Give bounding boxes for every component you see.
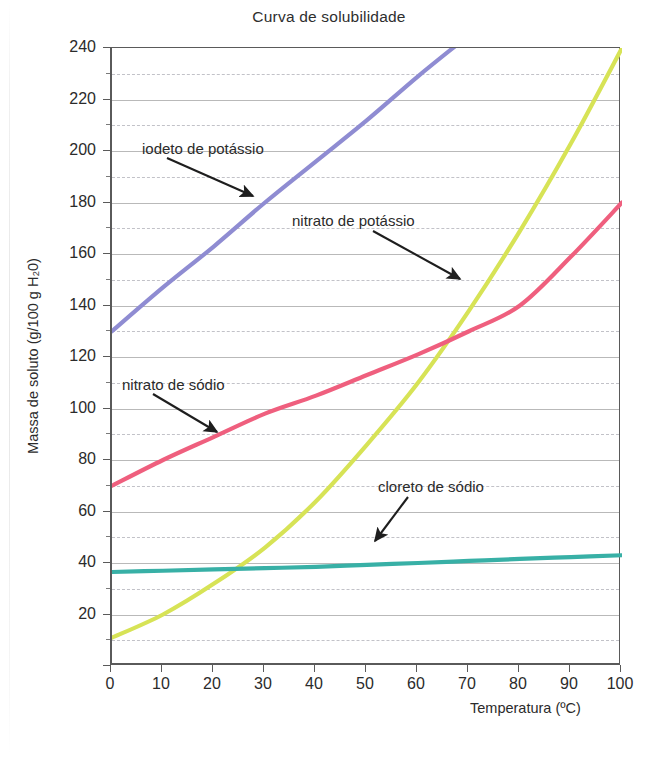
- series-line-nitrato-de-pot-ssio: [112, 48, 622, 638]
- y-axis-tick-minor: [106, 330, 110, 331]
- x-axis-tick-label: 20: [203, 675, 221, 693]
- x-axis-title: Temperatura (ºC): [470, 700, 581, 716]
- y-axis-tick-label: 80: [0, 450, 96, 468]
- y-axis-tick-minor: [106, 433, 110, 434]
- y-axis-tick: [103, 99, 110, 100]
- x-axis-tick: [212, 665, 213, 672]
- y-axis-tick-label: 140: [0, 296, 96, 314]
- x-axis-tick-label: 30: [254, 675, 272, 693]
- y-axis-tick-minor: [106, 536, 110, 537]
- x-axis-tick: [467, 665, 468, 672]
- y-axis-tick-label: 160: [0, 244, 96, 262]
- chart-title: Curva de solubilidade: [0, 8, 658, 26]
- y-axis-tick: [103, 47, 110, 48]
- x-axis-tick-label: 60: [407, 675, 425, 693]
- y-axis-tick: [103, 562, 110, 563]
- x-axis-tick: [365, 665, 366, 672]
- x-axis-tick-label: 80: [509, 675, 527, 693]
- y-axis-tick-label: 100: [0, 399, 96, 417]
- y-axis-tick-label: 60: [0, 502, 96, 520]
- x-axis-tick: [263, 665, 264, 672]
- y-axis-tick-label: 120: [0, 347, 96, 365]
- series-line-cloreto-de-s-dio: [112, 555, 622, 572]
- x-axis-tick-label: 90: [560, 675, 578, 693]
- annotation-cloreto-de-sodio: cloreto de sódio: [378, 478, 484, 495]
- page-scan-edge: [9, 0, 10, 758]
- y-axis-tick: [103, 202, 110, 203]
- y-axis-tick: [103, 511, 110, 512]
- x-axis-tick: [161, 665, 162, 672]
- y-axis-tick: [103, 665, 110, 666]
- y-axis-tick-label: 240: [0, 38, 96, 56]
- y-axis-tick-minor: [106, 279, 110, 280]
- y-axis-tick-minor: [106, 639, 110, 640]
- y-axis-tick-minor: [106, 382, 110, 383]
- x-axis-tick: [416, 665, 417, 672]
- y-axis-tick: [103, 459, 110, 460]
- x-axis-tick: [620, 665, 621, 672]
- x-axis-tick: [110, 665, 111, 672]
- x-axis-tick-label: 0: [106, 675, 115, 693]
- x-axis-tick-label: 70: [458, 675, 476, 693]
- x-axis-tick-label: 40: [305, 675, 323, 693]
- x-axis-tick: [314, 665, 315, 672]
- x-axis-tick-label: 10: [152, 675, 170, 693]
- y-axis-tick-minor: [106, 176, 110, 177]
- y-axis-tick: [103, 614, 110, 615]
- y-axis-tick-label: 180: [0, 193, 96, 211]
- annotation-nitrato-de-sodio: nitrato de sódio: [122, 376, 225, 393]
- y-axis-tick-label: 20: [0, 605, 96, 623]
- x-axis-tick-label: 50: [356, 675, 374, 693]
- y-axis-tick-minor: [106, 73, 110, 74]
- y-axis-tick: [103, 253, 110, 254]
- annotation-iodeto-de-potassio: iodeto de potássio: [142, 140, 264, 157]
- solubility-curve-figure: Curva de solubilidade Massa de soluto (g…: [0, 0, 658, 758]
- y-axis-tick-label: 200: [0, 141, 96, 159]
- y-axis-tick-minor: [106, 227, 110, 228]
- y-axis-tick: [103, 356, 110, 357]
- y-axis-tick: [103, 305, 110, 306]
- x-axis-tick-label: 100: [607, 675, 634, 693]
- y-axis-tick-minor: [106, 588, 110, 589]
- annotation-nitrato-de-potassio: nitrato de potássio: [292, 212, 415, 229]
- y-axis-tick: [103, 150, 110, 151]
- y-axis-tick-label: 40: [0, 553, 96, 571]
- x-axis-tick: [518, 665, 519, 672]
- x-axis-tick: [569, 665, 570, 672]
- y-axis-tick-minor: [106, 124, 110, 125]
- y-axis-tick: [103, 408, 110, 409]
- y-axis-tick-label: 220: [0, 90, 96, 108]
- y-axis-tick-minor: [106, 485, 110, 486]
